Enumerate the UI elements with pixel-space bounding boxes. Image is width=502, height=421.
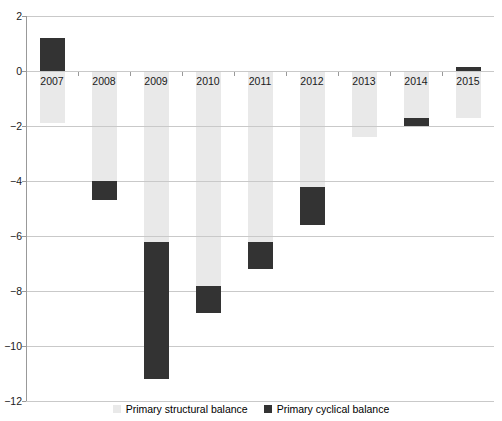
bar-structural-2012 (300, 71, 325, 187)
x-axis-tick (130, 72, 131, 76)
gridline-−12 (26, 401, 494, 402)
bar-cyclical-2007 (40, 38, 65, 71)
x-axis-tick (78, 72, 79, 76)
gridline-−8 (26, 291, 494, 292)
y-axis-line (26, 16, 27, 401)
legend-label-structural: Primary structural balance (126, 403, 248, 415)
gridline-−10 (26, 346, 494, 347)
y-axis-label-0: 0 (0, 65, 22, 77)
x-axis-label-2014: 2014 (396, 75, 436, 87)
x-axis-tick (234, 72, 235, 76)
x-axis-label-2011: 2011 (240, 75, 280, 87)
y-axis-tick (22, 401, 26, 402)
bar-structural-2009 (144, 71, 169, 242)
bar-cyclical-2009 (144, 242, 169, 380)
bar-structural-2011 (248, 71, 273, 242)
y-axis-label-−2: −2 (0, 120, 22, 132)
y-axis-label-−8: −8 (0, 285, 22, 297)
legend: Primary structural balance Primary cycli… (0, 403, 502, 415)
bar-cyclical-2012 (300, 187, 325, 226)
x-axis-tick (390, 72, 391, 76)
bar-cyclical-2014 (404, 118, 429, 126)
x-axis-label-2013: 2013 (344, 75, 384, 87)
bar-structural-2010 (196, 71, 221, 286)
gridline-2 (26, 16, 494, 17)
bar-cyclical-2011 (248, 242, 273, 270)
legend-item-cyclical: Primary cyclical balance (264, 403, 390, 415)
legend-item-structural: Primary structural balance (113, 403, 248, 415)
y-axis-label-−4: −4 (0, 175, 22, 187)
y-axis-label-−10: −10 (0, 340, 22, 352)
legend-swatch-structural-icon (113, 405, 121, 413)
y-axis-label-−6: −6 (0, 230, 22, 242)
gridline-−2 (26, 126, 494, 127)
y-axis-label-2: 2 (0, 10, 22, 22)
bar-cyclical-2008 (92, 181, 117, 200)
x-axis-label-2008: 2008 (84, 75, 124, 87)
gridline-−6 (26, 236, 494, 237)
plot-area: 20−2−4−6−8−10−12200720082009201020112012… (0, 0, 502, 421)
bar-cyclical-2010 (196, 286, 221, 314)
x-axis-tick (182, 72, 183, 76)
x-axis-tick (442, 72, 443, 76)
gridline-0 (26, 71, 494, 72)
stacked-bar-chart: 20−2−4−6−8−10−12200720082009201020112012… (0, 0, 502, 421)
x-axis-label-2010: 2010 (188, 75, 228, 87)
bar-cyclical-2015 (456, 67, 481, 71)
legend-label-cyclical: Primary cyclical balance (277, 403, 390, 415)
x-axis-label-2012: 2012 (292, 75, 332, 87)
x-axis-label-2009: 2009 (136, 75, 176, 87)
x-axis-tick (286, 72, 287, 76)
x-axis-label-2007: 2007 (32, 75, 72, 87)
x-axis-tick (338, 72, 339, 76)
x-axis-label-2015: 2015 (448, 75, 488, 87)
legend-swatch-cyclical-icon (264, 405, 272, 413)
